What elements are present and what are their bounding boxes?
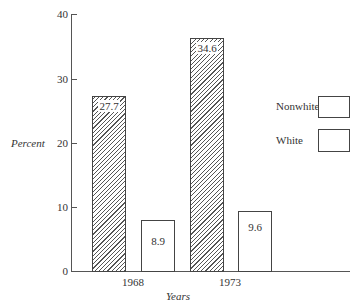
y-tick-label-40: 40 [48, 8, 68, 20]
bar-nonwhite-1968: 27.7 [92, 96, 126, 272]
bar-value-label: 8.9 [142, 235, 174, 247]
legend-label-nonwhite: Nonwhite [276, 100, 319, 112]
bar-value-label: 27.7 [93, 100, 125, 112]
y-axis-title: Percent [11, 137, 45, 149]
x-axis-title: Years [166, 290, 190, 302]
y-tick-label-20: 20 [48, 137, 68, 149]
bar-white-1968: 8.9 [141, 220, 175, 272]
y-tick-30 [71, 79, 77, 80]
bar-white-1973: 9.6 [238, 211, 272, 272]
y-tick-20 [71, 143, 77, 144]
x-tick-label-1973: 1973 [210, 276, 250, 288]
bar-nonwhite-1973: 34.6 [190, 38, 224, 272]
bar-value-label: 9.6 [239, 221, 271, 233]
y-tick-40 [71, 14, 77, 15]
y-tick-label-30: 30 [48, 73, 68, 85]
y-tick-label-0: 0 [48, 265, 68, 277]
legend-swatch-white [318, 129, 350, 152]
y-tick-label-10: 10 [48, 201, 68, 213]
bar-value-label: 34.6 [191, 42, 223, 54]
x-tick-label-1968: 1968 [113, 276, 153, 288]
legend-swatch-nonwhite [318, 96, 350, 118]
legend-label-white: White [276, 134, 303, 146]
y-tick-10 [71, 207, 77, 208]
